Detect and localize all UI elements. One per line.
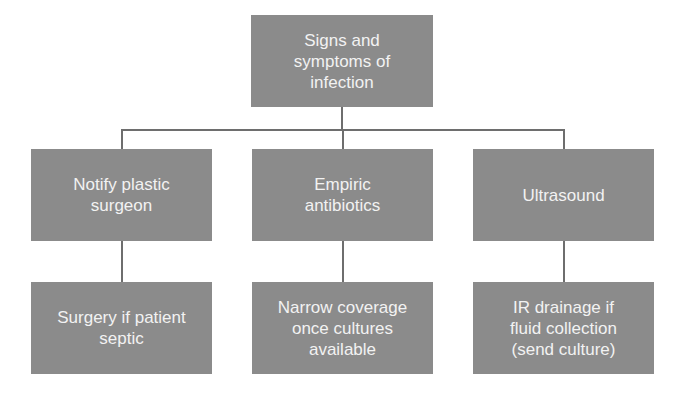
branch-node-notify-surgeon: Notify plastic surgeon: [31, 149, 212, 241]
child-node-ir-drainage: IR drainage if fluid collection (send cu…: [473, 282, 654, 374]
child-node-label: Surgery if patient septic: [37, 307, 206, 349]
root-node-label: Signs and symptoms of infection: [267, 30, 417, 93]
child-node-label: Narrow coverage once cultures available: [258, 297, 427, 360]
branch-node-label: Empiric antibiotics: [288, 174, 398, 216]
connector-branch-3-to-child: [563, 241, 565, 282]
connector-to-branch-2: [342, 129, 344, 149]
connector-to-branch-3: [563, 129, 565, 149]
branch-node-label: Ultrasound: [522, 185, 604, 206]
child-node-narrow-coverage: Narrow coverage once cultures available: [252, 282, 433, 374]
branch-node-label: Notify plastic surgeon: [52, 174, 192, 216]
connector-branch-1-to-child: [121, 241, 123, 282]
child-node-surgery: Surgery if patient septic: [31, 282, 212, 374]
connector-to-branch-1: [121, 129, 123, 149]
child-node-label: IR drainage if fluid collection (send cu…: [496, 297, 631, 360]
branch-node-empiric-antibiotics: Empiric antibiotics: [252, 149, 433, 241]
connector-root-down: [341, 107, 343, 129]
connector-branch-2-to-child: [342, 241, 344, 282]
branch-node-ultrasound: Ultrasound: [473, 149, 654, 241]
root-node: Signs and symptoms of infection: [251, 15, 433, 107]
